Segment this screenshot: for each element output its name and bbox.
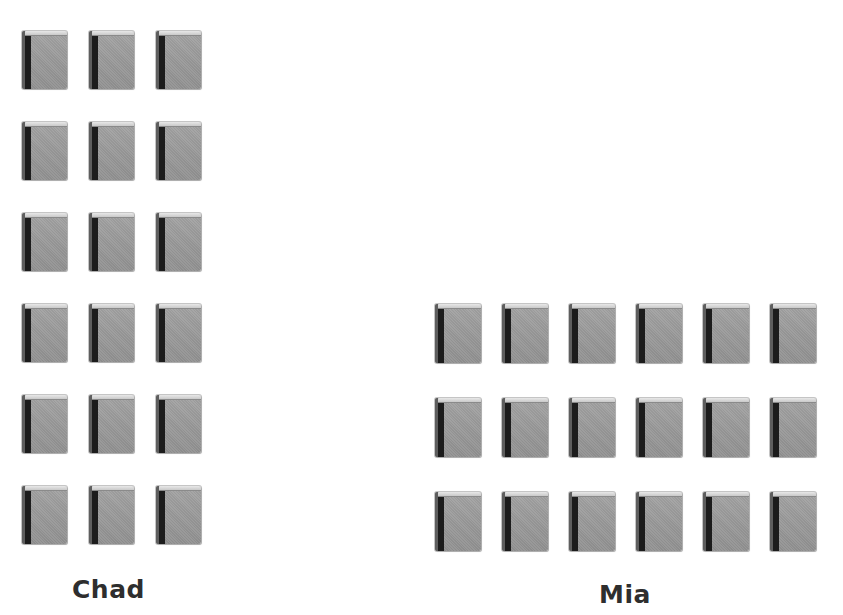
- book-spine: [92, 399, 98, 453]
- book-spine: [159, 217, 165, 271]
- book-spine: [639, 496, 645, 551]
- book-pages: [25, 486, 67, 491]
- book-pages: [505, 398, 548, 403]
- book-spine: [773, 308, 779, 363]
- book-pages: [639, 304, 682, 309]
- book-spine: [505, 402, 511, 457]
- book-spine: [438, 308, 444, 363]
- book-icon: [636, 492, 682, 551]
- book-icon: [22, 122, 67, 180]
- book-pages: [159, 213, 201, 218]
- book-icon: [156, 395, 201, 453]
- book-icon: [22, 31, 67, 89]
- book-pages: [438, 492, 481, 497]
- book-spine: [706, 496, 712, 551]
- book-spine: [92, 35, 98, 89]
- book-pages: [572, 398, 615, 403]
- book-pages: [25, 122, 67, 127]
- book-pages: [639, 398, 682, 403]
- book-spine: [25, 308, 31, 362]
- book-spine: [773, 496, 779, 551]
- book-spine: [572, 402, 578, 457]
- book-icon: [502, 492, 548, 551]
- book-pages: [25, 395, 67, 400]
- book-icon: [703, 492, 749, 551]
- book-pages: [25, 31, 67, 36]
- book-icon: [89, 395, 134, 453]
- book-icon: [89, 486, 134, 544]
- book-pages: [159, 31, 201, 36]
- book-icon: [156, 304, 201, 362]
- book-pages: [25, 213, 67, 218]
- book-icon: [435, 398, 481, 457]
- book-pages: [706, 492, 749, 497]
- book-spine: [25, 217, 31, 271]
- book-icon: [569, 304, 615, 363]
- book-pages: [159, 122, 201, 127]
- book-spine: [639, 402, 645, 457]
- book-spine: [25, 490, 31, 544]
- book-icon: [770, 398, 816, 457]
- book-spine: [438, 496, 444, 551]
- book-spine: [159, 490, 165, 544]
- book-icon: [636, 398, 682, 457]
- book-pages: [773, 492, 816, 497]
- book-spine: [25, 399, 31, 453]
- book-icon: [156, 122, 201, 180]
- book-icon: [502, 304, 548, 363]
- book-icon: [770, 492, 816, 551]
- mia-label: Mia: [599, 580, 651, 609]
- book-pages: [639, 492, 682, 497]
- book-pages: [92, 304, 134, 309]
- book-icon: [89, 213, 134, 271]
- book-icon: [22, 486, 67, 544]
- book-icon: [22, 213, 67, 271]
- book-pages: [25, 304, 67, 309]
- book-spine: [159, 35, 165, 89]
- book-icon: [435, 304, 481, 363]
- mia-book-grid: [435, 304, 816, 551]
- book-spine: [92, 308, 98, 362]
- book-spine: [706, 308, 712, 363]
- book-pages: [159, 486, 201, 491]
- book-pages: [438, 398, 481, 403]
- chad-label: Chad: [72, 575, 145, 604]
- book-pages: [505, 492, 548, 497]
- book-icon: [156, 486, 201, 544]
- book-spine: [773, 402, 779, 457]
- book-spine: [572, 308, 578, 363]
- book-spine: [92, 126, 98, 180]
- book-spine: [159, 308, 165, 362]
- book-spine: [25, 35, 31, 89]
- book-pages: [92, 122, 134, 127]
- book-spine: [505, 496, 511, 551]
- book-spine: [159, 126, 165, 180]
- book-pages: [572, 492, 615, 497]
- book-pages: [773, 304, 816, 309]
- book-spine: [706, 402, 712, 457]
- book-icon: [156, 213, 201, 271]
- book-pages: [159, 304, 201, 309]
- book-icon: [569, 398, 615, 457]
- book-spine: [25, 126, 31, 180]
- book-pages: [706, 398, 749, 403]
- book-spine: [438, 402, 444, 457]
- book-icon: [156, 31, 201, 89]
- chad-book-grid: [22, 31, 201, 544]
- book-spine: [92, 217, 98, 271]
- book-spine: [505, 308, 511, 363]
- book-icon: [569, 492, 615, 551]
- book-icon: [89, 122, 134, 180]
- book-spine: [159, 399, 165, 453]
- book-icon: [89, 31, 134, 89]
- book-icon: [89, 304, 134, 362]
- book-pages: [92, 213, 134, 218]
- book-icon: [502, 398, 548, 457]
- book-pages: [572, 304, 615, 309]
- book-icon: [703, 398, 749, 457]
- book-spine: [92, 490, 98, 544]
- book-pages: [92, 395, 134, 400]
- book-icon: [636, 304, 682, 363]
- book-pages: [92, 486, 134, 491]
- book-pages: [159, 395, 201, 400]
